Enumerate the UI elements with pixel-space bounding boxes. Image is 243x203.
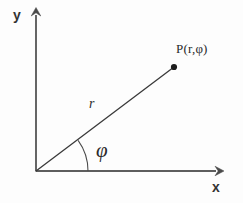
polar-coordinate-diagram: y x r φ P(r,φ) — [0, 0, 243, 203]
x-axis-label: x — [212, 180, 220, 194]
diagram-canvas — [0, 0, 243, 203]
point-p-label: P(r,φ) — [176, 42, 208, 55]
x-axis-arrowhead-icon — [215, 166, 224, 176]
angle-label: φ — [96, 140, 108, 161]
y-axis-label: y — [13, 8, 21, 22]
y-axis-arrowhead-icon — [31, 8, 41, 17]
point-p-marker — [171, 64, 177, 70]
radius-label: r — [89, 97, 94, 111]
angle-arc — [78, 140, 88, 171]
